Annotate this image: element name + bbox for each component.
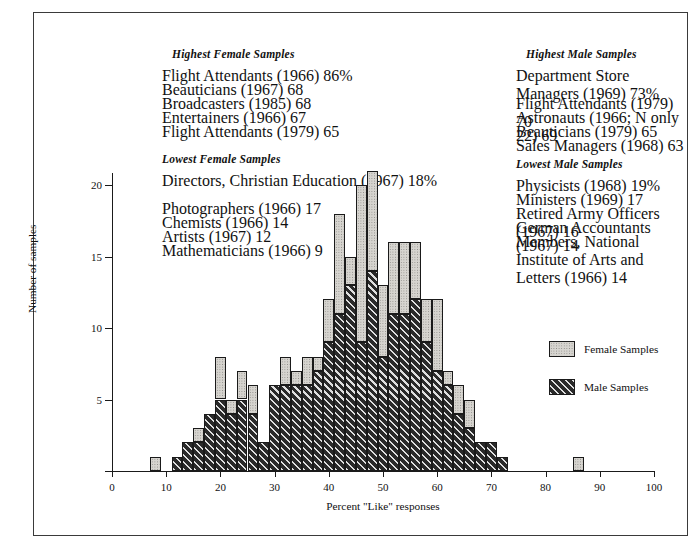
histogram-bar-female xyxy=(453,385,464,414)
list-item: Flight Attendants (1966) 86% xyxy=(162,67,353,81)
histogram-bar-male xyxy=(399,314,410,471)
x-axis-line xyxy=(112,471,654,472)
histogram-bar-male xyxy=(345,285,356,471)
legend-item-male: Male Samples xyxy=(549,379,658,395)
x-tick-label: 100 xyxy=(646,481,663,493)
list-item: Beauticians (1967) 68 xyxy=(162,81,353,95)
histogram-bar-male xyxy=(323,342,334,471)
x-tick-label: 50 xyxy=(378,481,389,493)
histogram-bar-female xyxy=(410,242,421,299)
histogram-bar-female xyxy=(280,357,291,386)
x-tick-label: 70 xyxy=(486,481,497,493)
histogram-bar-male xyxy=(388,314,399,471)
histogram-bar-male xyxy=(486,442,497,471)
histogram-bar-male xyxy=(258,442,269,471)
histogram-bar-female xyxy=(432,299,443,371)
block-title: Highest Female Samples xyxy=(172,48,353,60)
histogram-bar-male xyxy=(226,414,237,471)
figure-frame: Highest Female Samples Flight Attendants… xyxy=(33,12,688,536)
y-tick-label: 10 xyxy=(78,322,102,334)
legend-item-female: Female Samples xyxy=(549,341,658,357)
histogram-bar-male xyxy=(269,385,280,471)
item-value: 63 xyxy=(668,137,684,154)
list-item: Astronauts (1966; N only 22) 69 xyxy=(516,109,687,123)
x-tick-label: 10 xyxy=(161,481,172,493)
histogram-bar-male xyxy=(334,314,345,471)
x-tick-label: 80 xyxy=(540,481,551,493)
histogram-bar-female xyxy=(378,285,389,357)
histogram-bar-female xyxy=(150,457,161,471)
histogram-bar-male xyxy=(464,428,475,471)
legend-label: Female Samples xyxy=(584,343,658,355)
y-tick-label: 5 xyxy=(78,394,102,406)
histogram-bar-female xyxy=(237,371,248,400)
legend-swatch-male-icon xyxy=(549,379,575,395)
list-item: Department Store Managers (1969) 73% xyxy=(516,67,687,95)
histogram-bar-female xyxy=(226,400,237,414)
block-title: Highest Male Samples xyxy=(526,48,687,60)
block-title: Lowest Male Samples xyxy=(516,158,687,170)
histogram-bar-male xyxy=(291,385,302,471)
annotation-block-highest-male: Highest Male Samples Department Store Ma… xyxy=(506,48,687,152)
legend-label: Male Samples xyxy=(584,381,648,393)
histogram-bar-male xyxy=(280,385,291,471)
block-title: Lowest Female Samples xyxy=(162,153,437,165)
histogram-bar-male xyxy=(378,357,389,471)
y-axis-line xyxy=(112,173,113,472)
histogram-bar-male xyxy=(497,457,508,471)
x-tick-label: 0 xyxy=(109,481,115,493)
histogram-bar-male xyxy=(356,342,367,471)
histogram-bar-female xyxy=(443,371,454,385)
histogram-bar-male xyxy=(367,271,378,471)
legend-swatch-female-icon xyxy=(549,341,575,357)
histogram-bar-female xyxy=(356,185,367,342)
histogram-bar-male xyxy=(443,385,454,471)
histogram-bar-male xyxy=(172,457,183,471)
histogram-bar-female xyxy=(388,242,399,314)
x-tick xyxy=(654,471,655,477)
histogram-bar-male xyxy=(204,414,215,471)
x-tick-label: 40 xyxy=(323,481,334,493)
list-item: Entertainers (1966) 67 xyxy=(162,109,353,123)
block-rows: Flight Attendants (1966) 86% Beauticians… xyxy=(162,67,353,137)
item-label: Flight Attendants (1979) xyxy=(162,123,319,140)
x-tick-label: 90 xyxy=(594,481,605,493)
x-tick-label: 30 xyxy=(269,481,280,493)
histogram-bar-female xyxy=(421,299,432,342)
histogram-bar-female xyxy=(291,371,302,385)
list-item: Flight Attendants (1979) 70 xyxy=(516,95,687,109)
list-item: Broadcasters (1985) 68 xyxy=(162,95,353,109)
item-value: 65 xyxy=(323,123,339,140)
histogram-bar-male xyxy=(302,385,313,471)
histogram-bar-female xyxy=(248,385,259,414)
histogram-bar-female xyxy=(334,214,345,314)
x-tick-label: 20 xyxy=(215,481,226,493)
y-tick xyxy=(105,328,112,329)
y-tick xyxy=(105,257,112,258)
histogram-bar-female xyxy=(323,299,334,342)
histogram-bar-female xyxy=(193,428,204,442)
histogram-bar-male xyxy=(453,414,464,471)
histogram-bar-male xyxy=(313,371,324,471)
list-item: Sales Managers (1968) 63 xyxy=(516,137,687,151)
x-tick-label: 60 xyxy=(432,481,443,493)
y-axis-title: Number of samples xyxy=(26,225,38,313)
item-label: Sales Managers (1968) xyxy=(516,137,664,154)
chart-legend: Female Samples Male Samples xyxy=(549,341,658,417)
histogram-bar-female xyxy=(464,400,475,429)
histogram-bar-male xyxy=(193,442,204,471)
histogram-bar-female xyxy=(573,457,584,471)
y-tick-label: 20 xyxy=(78,179,102,191)
histogram-bar-male xyxy=(237,400,248,472)
histogram-bar-female xyxy=(367,171,378,271)
list-item: Beauticians (1979) 65 xyxy=(516,123,687,137)
annotation-block-highest-female: Highest Female Samples Flight Attendants… xyxy=(144,48,353,137)
histogram-bar-female xyxy=(345,257,356,286)
histogram-bar-female xyxy=(399,242,410,314)
item-label: Department Store xyxy=(516,67,629,84)
histogram-bar-male xyxy=(182,442,193,471)
histogram-bar-male xyxy=(248,414,259,471)
histogram-bar-male xyxy=(475,442,486,471)
histogram-bar-female xyxy=(302,357,313,386)
y-tick xyxy=(105,471,112,472)
